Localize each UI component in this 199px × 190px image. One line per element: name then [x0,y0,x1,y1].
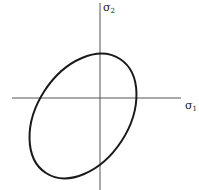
sigma2-symbol: σ [103,1,111,14]
yield-ellipse [7,34,158,190]
sigma2-subscript: 2 [111,7,115,15]
diagram-canvas [0,0,199,190]
sigma1-subscript: 1 [193,105,197,113]
stress-diagram: σ2 σ1 [0,0,199,190]
sigma1-symbol: σ [185,99,193,112]
sigma2-axis-label: σ2 [103,2,115,15]
sigma1-axis-label: σ1 [185,100,197,113]
